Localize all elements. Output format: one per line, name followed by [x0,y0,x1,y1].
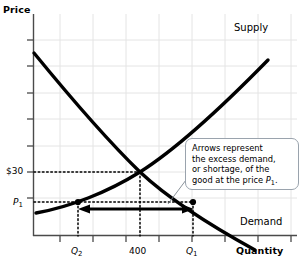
x-tick-label-q1-subscript: 1 [193,250,197,258]
callout-line-3: or shortage, of the [192,164,293,175]
x-axis-title: Quantity [236,245,283,256]
q2-point-marker [75,199,81,205]
guide-lines [34,172,193,236]
shortage-arrow [78,204,194,213]
shortage-arrow-head-left [78,204,90,213]
y-tick-label-equilibrium-price: $30 [6,166,23,176]
callout-line-2: the excess demand, [192,154,293,165]
x-tick-label-q2-subscript: 2 [78,250,82,258]
supply-curve [36,60,268,213]
y-tick-label-p1: P1 [13,197,23,207]
y-tick-label-p1-subscript: 1 [18,201,22,209]
x-axis-ticks [60,236,291,242]
callout-line-1: Arrows represent [192,143,293,154]
y-axis-ticks [27,40,33,198]
x-tick-label-q2: Q2 [71,246,83,256]
demand-curve-label: Demand [240,216,282,227]
supply-curve-label: Supply [234,22,268,33]
callout-line-4-subscript: 1 [271,179,275,187]
supply-demand-chart-figure: Price Quantity Supply Demand $30 P1 Q2 4… [0,0,307,264]
y-axis-title: Price [3,4,30,15]
callout-line-4-text: good at the price [192,175,266,185]
x-tick-label-q1: Q1 [186,246,198,256]
q1-point-marker [190,199,196,205]
shortage-annotation-callout: Arrows represent the excess demand, or s… [185,138,299,190]
x-tick-label-equilibrium-quantity: 400 [129,246,146,256]
callout-line-4: good at the price P1. [192,175,293,186]
callout-line-4-period: . [275,175,278,185]
